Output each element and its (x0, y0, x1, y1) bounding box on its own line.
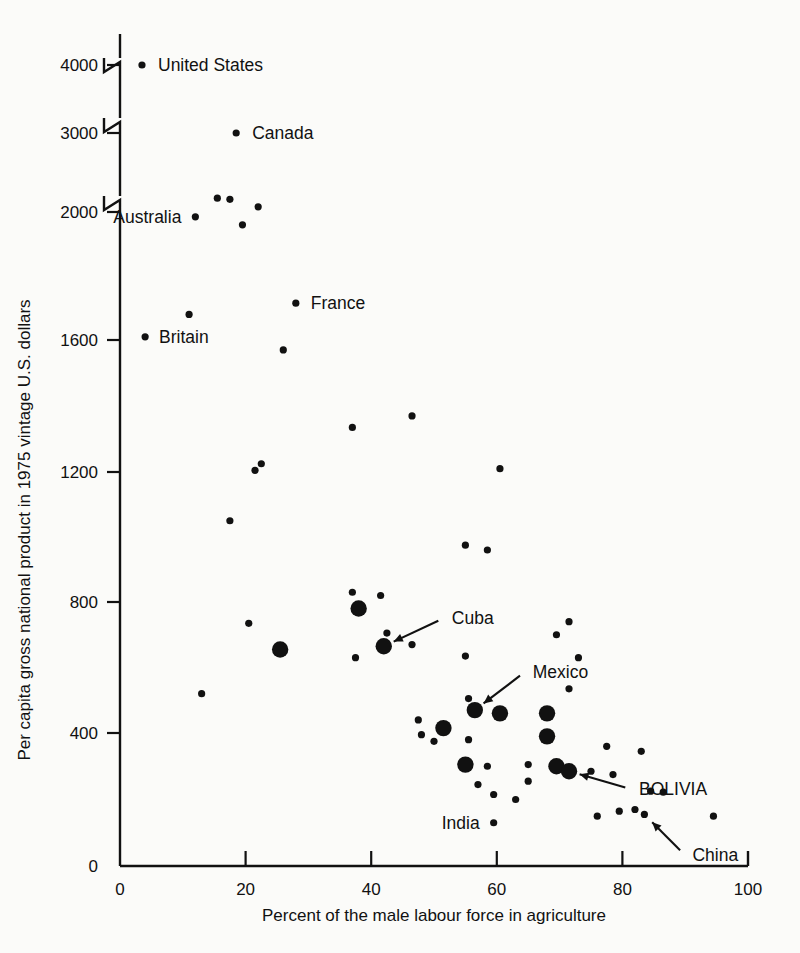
y-tick-label: 1200 (60, 463, 98, 482)
data-point-small (255, 203, 262, 210)
y-tick-label: 0 (89, 857, 98, 876)
data-point-large (350, 600, 366, 616)
annotation-label: Canada (252, 123, 314, 143)
data-point-small (616, 808, 623, 815)
data-point-small (565, 618, 572, 625)
data-point-small (214, 195, 221, 202)
x-tick-label: 80 (613, 880, 632, 899)
data-point-large (435, 720, 451, 736)
data-point-small (258, 460, 265, 467)
data-point-large (457, 756, 473, 772)
y-tick-label: 1600 (60, 331, 98, 350)
data-point-small (198, 690, 205, 697)
data-points (138, 61, 717, 826)
data-point-small (465, 695, 472, 702)
y-tick-label: 3000 (60, 124, 98, 143)
x-axis-title: Percent of the male labour force in agri… (262, 906, 606, 925)
data-point-small (233, 129, 240, 136)
data-point-small (349, 589, 356, 596)
data-point-small (245, 620, 252, 627)
data-point-small (609, 771, 616, 778)
data-point-small (377, 592, 384, 599)
data-point-small (474, 781, 481, 788)
annotation-label: China (692, 845, 738, 865)
annotation-label: United States (158, 55, 263, 75)
data-point-large (539, 705, 555, 721)
axis-break-marks (104, 58, 120, 228)
x-tick-label: 60 (487, 880, 506, 899)
point-annotations: United StatesCanadaAustraliaBritainFranc… (113, 55, 738, 865)
data-point-small (565, 685, 572, 692)
chart-canvas: 040080012001600200030004000 020406080100… (0, 0, 800, 953)
data-point-small (408, 641, 415, 648)
data-point-small (292, 300, 299, 307)
axis-break-icon (104, 58, 120, 86)
data-point-large (492, 705, 508, 721)
annotation-label: Australia (113, 207, 181, 227)
scatter-plot: 040080012001600200030004000 020406080100… (0, 0, 800, 953)
data-point-small (490, 819, 497, 826)
data-point-small (631, 806, 638, 813)
x-tick-label: 40 (362, 880, 381, 899)
data-point-small (185, 311, 192, 318)
annotation-label: France (311, 293, 365, 313)
data-point-small (383, 630, 390, 637)
y-tick-label: 2000 (60, 203, 98, 222)
data-point-small (418, 731, 425, 738)
data-point-large (539, 728, 555, 744)
data-point-small (142, 333, 149, 340)
annotation-label: India (442, 813, 480, 833)
y-tick-label: 4000 (60, 56, 98, 75)
data-point-small (575, 654, 582, 661)
data-point-small (462, 652, 469, 659)
data-point-small (138, 61, 145, 68)
data-point-small (512, 796, 519, 803)
data-point-small (408, 412, 415, 419)
data-point-small (490, 791, 497, 798)
data-point-small (226, 517, 233, 524)
data-point-large (272, 641, 288, 657)
data-point-large (467, 702, 483, 718)
data-point-small (603, 743, 610, 750)
annotation-label: Cuba (452, 608, 494, 628)
data-point-small (352, 654, 359, 661)
data-point-small (641, 811, 648, 818)
annotation-label: BOLIVIA (639, 779, 707, 799)
data-point-small (710, 813, 717, 820)
data-point-small (430, 738, 437, 745)
data-point-small (496, 465, 503, 472)
annotation-label: Mexico (533, 662, 588, 682)
x-tick-label: 100 (734, 880, 762, 899)
data-point-small (226, 196, 233, 203)
x-tick-label: 0 (115, 880, 124, 899)
data-point-small (462, 542, 469, 549)
data-point-small (239, 221, 246, 228)
data-point-small (415, 716, 422, 723)
data-point-large (561, 763, 577, 779)
data-point-small (349, 424, 356, 431)
data-point-small (484, 763, 491, 770)
data-point-small (251, 467, 258, 474)
data-point-small (280, 346, 287, 353)
y-tick-label: 800 (70, 593, 98, 612)
x-tick-label: 20 (236, 880, 255, 899)
x-axis-ticks: 020406080100 (115, 851, 762, 899)
y-tick-label: 400 (70, 724, 98, 743)
y-axis-title: Per capita gross national product in 197… (15, 299, 34, 760)
data-point-small (465, 736, 472, 743)
data-point-small (594, 813, 601, 820)
data-point-small (525, 761, 532, 768)
data-point-small (553, 631, 560, 638)
data-point-small (484, 546, 491, 553)
data-point-large (376, 638, 392, 654)
y-axis-ticks: 040080012001600200030004000 (60, 56, 120, 876)
data-point-small (638, 748, 645, 755)
data-point-small (525, 778, 532, 785)
data-point-small (192, 213, 199, 220)
annotation-label: Britain (159, 327, 209, 347)
